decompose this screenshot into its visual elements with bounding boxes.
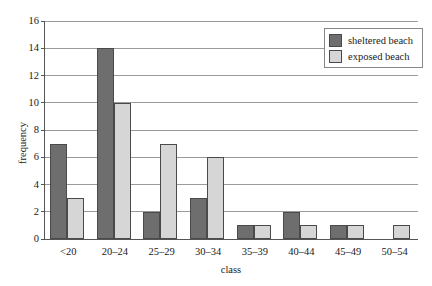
bar — [300, 225, 317, 239]
bar — [114, 103, 131, 239]
legend-swatch-exposed — [329, 50, 342, 63]
bar — [97, 48, 114, 239]
chart-legend: sheltered beachexposed beach — [324, 28, 423, 68]
legend-item: sheltered beach — [329, 32, 418, 48]
bar-group: 30–34 — [185, 21, 232, 239]
bar — [393, 225, 410, 239]
y-axis-title: frequency — [17, 122, 28, 164]
y-tick-label: 0 — [34, 234, 39, 245]
legend-swatch-sheltered — [329, 34, 342, 47]
x-tick-label: 40–44 — [278, 246, 325, 257]
x-tick-label: 30–34 — [185, 246, 232, 257]
bar-group: 40–44 — [278, 21, 325, 239]
y-tick-label: 12 — [29, 70, 40, 81]
bar — [283, 212, 300, 239]
bar — [50, 144, 67, 239]
x-tick-label: 20–24 — [92, 246, 139, 257]
bar-group: <20 — [45, 21, 92, 239]
y-tick-label: 16 — [29, 16, 40, 27]
x-tick-label: 35–39 — [232, 246, 279, 257]
bar-group: 35–39 — [232, 21, 279, 239]
y-tick-label: 6 — [34, 152, 39, 163]
bar-group: 20–24 — [92, 21, 139, 239]
y-tick-label: 10 — [29, 98, 40, 109]
bar — [190, 198, 207, 239]
bar — [237, 225, 254, 239]
bar — [254, 225, 271, 239]
x-tick-label: <20 — [45, 246, 92, 257]
y-tick-label: 2 — [34, 207, 39, 218]
bar — [207, 157, 224, 239]
bar — [347, 225, 364, 239]
bar — [160, 144, 177, 239]
y-tick-label: 8 — [34, 125, 39, 136]
x-tick-label: 45–49 — [325, 246, 372, 257]
x-axis-title: class — [44, 264, 418, 275]
legend-item: exposed beach — [329, 48, 418, 64]
x-tick-label: 50–54 — [371, 246, 418, 257]
legend-item-label: exposed beach — [348, 51, 410, 62]
y-tick-label: 14 — [29, 43, 40, 54]
bar — [330, 225, 347, 239]
bar — [67, 198, 84, 239]
y-tick-label: 4 — [34, 179, 39, 190]
bar — [143, 212, 160, 239]
bar-group: 25–29 — [138, 21, 185, 239]
bar-chart: frequency 0246810121416 <2020–2425–2930–… — [0, 0, 432, 286]
legend-item-label: sheltered beach — [348, 35, 413, 46]
x-tick-label: 25–29 — [138, 246, 185, 257]
